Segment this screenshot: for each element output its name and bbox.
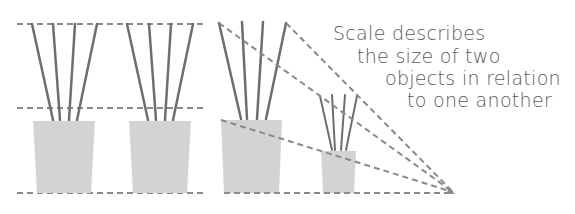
caption-line-2: the size of two: [357, 45, 501, 67]
pot-1-sticks: [32, 24, 97, 120]
caption-line-4: to one another: [407, 89, 552, 111]
large-pot: [221, 120, 282, 193]
large-pot-sticks: [219, 22, 286, 119]
pot-2-sticks: [127, 24, 193, 120]
small-pot-sticks: [320, 95, 357, 150]
caption-line-3: objects in relation: [385, 67, 561, 89]
equal-size-panel: [17, 24, 207, 193]
pot-2: [129, 121, 191, 193]
pot-1: [33, 121, 95, 193]
caption-line-1: Scale describes: [333, 22, 486, 44]
